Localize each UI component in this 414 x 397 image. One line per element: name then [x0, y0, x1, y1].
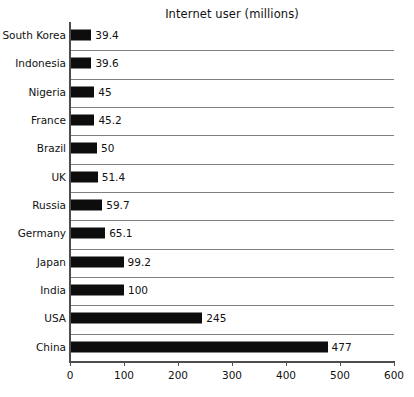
bar-value-label: 99.2 [128, 256, 151, 268]
bar [70, 115, 94, 126]
bar [70, 30, 91, 41]
bar [70, 200, 102, 211]
bar-value-label: 100 [128, 284, 148, 296]
bar-row: Germany65.1 [70, 220, 394, 246]
x-tick-label: 200 [168, 369, 188, 381]
category-label: Russia [32, 199, 66, 211]
chart-title: Internet user (millions) [70, 7, 394, 21]
category-label: Nigeria [28, 86, 66, 98]
x-tick-label: 500 [330, 369, 350, 381]
category-label: China [36, 341, 66, 353]
bar-row: UK51.4 [70, 164, 394, 190]
category-label: Germany [18, 227, 66, 239]
bar [70, 228, 105, 239]
x-tick-mark [178, 362, 179, 366]
bar [70, 313, 202, 324]
category-label: Japan [37, 256, 66, 268]
bar-value-label: 45 [98, 86, 111, 98]
bar-value-label: 39.6 [95, 57, 118, 69]
x-tick-mark [70, 362, 71, 366]
category-label: UK [51, 171, 66, 183]
bar-row: Brazil50 [70, 135, 394, 161]
bar [70, 143, 97, 154]
category-label: Indonesia [15, 57, 66, 69]
bar [70, 86, 94, 97]
x-tick-mark [340, 362, 341, 366]
bar [70, 256, 124, 267]
x-tick-label: 300 [222, 369, 242, 381]
y-axis-line [69, 22, 71, 362]
category-label: Brazil [37, 142, 66, 154]
bar-value-label: 51.4 [102, 171, 125, 183]
bar-row: France45.2 [70, 107, 394, 133]
bar-value-label: 65.1 [109, 227, 132, 239]
category-label: France [31, 114, 66, 126]
bar-value-label: 59.7 [106, 199, 129, 211]
category-label: South Korea [2, 29, 66, 41]
bar-value-label: 50 [101, 142, 114, 154]
bar-row: Russia59.7 [70, 192, 394, 218]
bar-value-label: 45.2 [98, 114, 121, 126]
plot-area: South Korea39.4Indonesia39.6Nigeria45Fra… [70, 22, 394, 362]
bar-row: India100 [70, 277, 394, 303]
bar [70, 341, 328, 352]
x-tick-mark [394, 362, 395, 366]
bar-row: Japan99.2 [70, 249, 394, 275]
x-tick-label: 600 [384, 369, 404, 381]
category-label: USA [44, 312, 66, 324]
bar [70, 171, 98, 182]
bar-row: USA245 [70, 305, 394, 331]
x-tick-mark [124, 362, 125, 366]
bar-value-label: 477 [332, 341, 352, 353]
x-tick-mark [286, 362, 287, 366]
x-tick-label: 400 [276, 369, 296, 381]
bar-value-label: 39.4 [95, 29, 118, 41]
x-tick-label: 100 [114, 369, 134, 381]
category-label: India [40, 284, 66, 296]
bar-chart: Internet user (millions) South Korea39.4… [0, 0, 414, 397]
x-tick-label: 0 [67, 369, 74, 381]
bar-row: South Korea39.4 [70, 22, 394, 48]
x-tick-mark [232, 362, 233, 366]
bar-row: China477 [70, 334, 394, 360]
bar-value-label: 245 [206, 312, 226, 324]
bar-row: Indonesia39.6 [70, 50, 394, 76]
bar [70, 58, 91, 69]
bar-row: Nigeria45 [70, 79, 394, 105]
bar [70, 285, 124, 296]
